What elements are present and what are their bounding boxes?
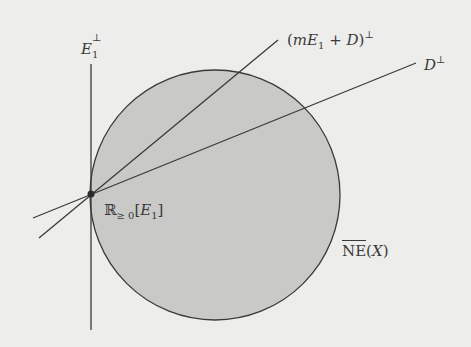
label-text: ] <box>158 201 164 219</box>
label-sup: ⊥ <box>436 54 445 65</box>
label-sup: ⊥ <box>92 33 101 43</box>
label-text: E <box>307 31 318 49</box>
label-text: D <box>424 56 436 74</box>
label-text: X <box>372 242 383 260</box>
label-text: m <box>293 31 307 49</box>
label-sup: ⊥ <box>364 29 373 40</box>
label-closed-NE-X: NE(X) <box>342 244 388 259</box>
label-ray-R-geq0-E1: ℝ≥ 0[E1] <box>104 203 163 221</box>
label-text: E <box>140 201 151 219</box>
label-sub: ≥ 0 <box>116 210 134 221</box>
closed-cone-NE-X <box>90 70 340 320</box>
diagram-svg <box>0 0 471 347</box>
label-text: ℝ <box>104 201 116 219</box>
label-text: NE <box>342 240 366 260</box>
label-text: D <box>347 31 359 49</box>
label-text: E <box>81 40 92 58</box>
label-sub: 1 <box>92 49 98 60</box>
label-E1-perp: E⊥1 <box>81 42 98 60</box>
ray-point-E1 <box>88 191 95 198</box>
label-text: ) <box>383 242 389 260</box>
label-D-perp: D⊥ <box>424 55 445 73</box>
label-text: + <box>324 31 346 49</box>
label-mE1-plus-D-perp: (mE1 + D)⊥ <box>287 30 374 51</box>
nef-cone-diagram: E⊥1 (mE1 + D)⊥ D⊥ ℝ≥ 0[E1] NE(X) <box>0 0 471 347</box>
